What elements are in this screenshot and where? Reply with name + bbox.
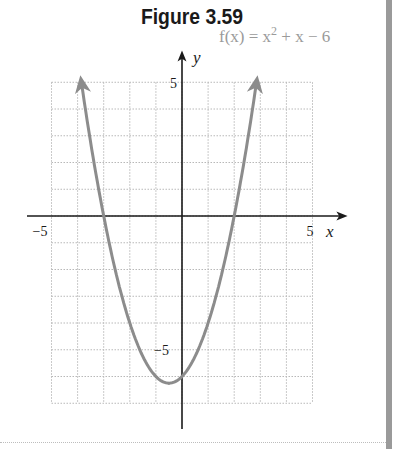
- y-tick-label: −5: [154, 343, 169, 358]
- parabola-chart: −555−5xy f(x) = x2 + x − 6: [0, 0, 394, 449]
- y-tick-label: 5: [170, 76, 177, 91]
- x-tick-label: −5: [33, 224, 48, 239]
- function-label: f(x) = x2 + x − 6: [219, 24, 330, 46]
- x-axis-label: x: [325, 222, 334, 241]
- x-tick-label: 5: [307, 224, 314, 239]
- y-axis-label: y: [191, 48, 201, 67]
